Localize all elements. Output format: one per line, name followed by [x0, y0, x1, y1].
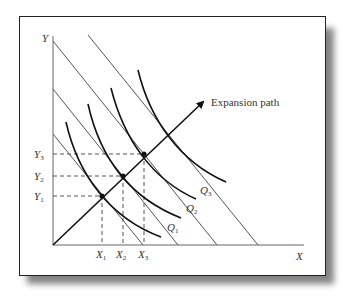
isoquant-curve-q1 — [88, 104, 181, 218]
diagram-canvas: Y X Expansion path Y1 Y2 Y3 — [0, 0, 347, 300]
y-axis-label: Y — [42, 32, 50, 44]
equilibrium-point-2 — [120, 173, 125, 178]
x-axis-label: X — [295, 250, 304, 262]
isoquant-curve-q2 — [111, 88, 196, 199]
q2-label: Q2 — [186, 202, 198, 216]
isoquant-curve-q3 — [138, 70, 226, 182]
isocost-line — [53, 134, 143, 245]
x3-label: X3 — [137, 248, 149, 262]
x1-label: X1 — [95, 248, 107, 262]
isocost-line — [53, 41, 217, 245]
y1-label: Y1 — [34, 190, 44, 204]
isocost-line — [88, 35, 258, 245]
expansion-path-arrow — [53, 102, 203, 245]
y3-label: Y3 — [34, 148, 44, 162]
isocost-lines — [53, 35, 258, 245]
y2-label: Y2 — [34, 170, 44, 184]
x2-label: X2 — [115, 248, 127, 262]
equilibrium-point-3 — [141, 151, 146, 156]
expansion-path-label: Expansion path — [211, 96, 280, 108]
q1-label: Q1 — [167, 221, 179, 235]
equilibrium-point-1 — [99, 193, 104, 198]
